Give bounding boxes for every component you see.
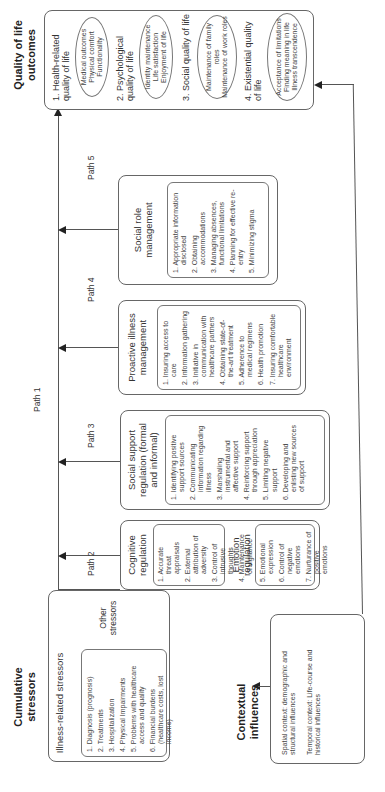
- regulation-box: Cognitive regulation 1. Accurate threat …: [120, 520, 320, 590]
- social-support-item: 3. Marshaling instrumental and affective…: [216, 420, 240, 500]
- social-role-item: 3. Managing absences, functional limitat…: [210, 187, 226, 273]
- qol-box: 1. Health-related quality of life Medica…: [44, 10, 314, 110]
- other-stressors-label: Other stressors: [99, 593, 119, 643]
- proactive-item: 3. Initiative in communication with heal…: [192, 310, 216, 385]
- contextual-box: Spatial context: demographic and structu…: [270, 614, 365, 764]
- path-5-line: [62, 229, 118, 230]
- oval-line: Identity maintenance: [144, 25, 152, 90]
- social-role-header: Social role management: [133, 180, 155, 280]
- stressor-item: 6. Financial burdens (healthcare costs, …: [149, 654, 173, 752]
- proactive-header: Proactive illness management: [127, 305, 149, 390]
- path-3-line: [62, 461, 120, 462]
- path-4-arrow-icon: [58, 344, 66, 352]
- proactive-box: Proactive illness management 1. Insuring…: [118, 300, 306, 395]
- path-3-label: Path 3: [86, 423, 96, 448]
- social-role-list: 1. Appropriate information disclosed 2. …: [172, 187, 256, 273]
- path-4-line: [62, 347, 118, 348]
- proactive-item: 4. Obtaining state-of-the-art treatment: [219, 310, 235, 385]
- qol-health-label: 1. Health-related quality of life: [51, 13, 72, 101]
- path-2-label: Path 2: [86, 551, 96, 576]
- temporal-context: Temporal context: Life-course and histor…: [306, 623, 323, 755]
- stressor-item: 4. Physical Impairments: [119, 654, 127, 752]
- illness-related-list-box: 1. Diagnosis (prognosis) 2. Treatments 3…: [81, 649, 167, 757]
- cognitive-item: 1. Accurate threat appraisals: [157, 528, 181, 582]
- oval-line: Physical comfort: [88, 31, 96, 82]
- social-support-list: 1. Identifying positive support sources …: [170, 420, 306, 500]
- path-3-arrow-icon: [58, 458, 66, 466]
- oval-line: Medical outcomes: [80, 29, 88, 85]
- diagram-canvas: Cumulative stressors Illness-related str…: [0, 0, 385, 792]
- cumulative-stressors-title: Cumulative stressors: [12, 642, 38, 752]
- oval-line: Finding meaning in life: [283, 22, 291, 92]
- path-2-arrow-icon: [58, 552, 66, 560]
- stressor-item: 2. Treatments: [97, 654, 105, 752]
- cognitive-header: Cognitive regulation: [127, 525, 149, 585]
- oval-line: Life satisfaction: [152, 33, 160, 81]
- oval-line: Acceptance of limitations: [275, 18, 283, 95]
- proactive-item: 6. Health promotion: [257, 310, 265, 385]
- path-5-label: Path 5: [86, 155, 96, 180]
- social-support-header: Social support regulation (formal and in…: [127, 415, 160, 505]
- oval-line: Functionality: [96, 37, 104, 76]
- spatial-context: Spatial context: demographic and structu…: [281, 623, 298, 755]
- emotion-item: 6. Control of negative emotions: [278, 528, 302, 582]
- social-support-item: 6. Developing and enlisting new sources …: [282, 420, 306, 500]
- oval-line: Illness transcendence: [291, 23, 299, 91]
- context-qol-connector: [320, 84, 354, 85]
- emotion-list-box: 5. Emotional expression 6. Control of ne…: [255, 524, 315, 586]
- social-role-item: 2. Obtaining accommodations: [191, 187, 207, 273]
- context-to-qol-line: [353, 84, 363, 614]
- social-support-item: 1. Identifying positive support sources: [170, 420, 186, 500]
- qol-existential-oval: Acceptance of limitations Finding meanin…: [267, 13, 307, 101]
- social-support-list-box: 1. Identifying positive support sources …: [165, 415, 325, 505]
- stressor-item: 5. Problems with healthcare access and q…: [130, 654, 146, 752]
- proactive-item: 2. Information gathering: [181, 310, 189, 385]
- path-1-label: Path 1: [32, 387, 42, 412]
- context-qol-arrow-icon: [314, 81, 322, 89]
- emotion-list: 5. Emotional expression 6. Control of ne…: [259, 528, 329, 582]
- cognitive-list-box: 1. Accurate threat appraisals 2. Externa…: [153, 524, 225, 586]
- qol-social-oval: Maintenance of family roles Maintenance …: [197, 15, 237, 99]
- social-role-item: 1. Appropriate information disclosed: [172, 187, 188, 273]
- social-role-box: Social role management 1. Appropriate in…: [118, 175, 278, 285]
- social-role-item: 5. Minimizing stigma: [248, 187, 256, 273]
- qol-existential-label: 4. Existential quality of life: [243, 13, 264, 101]
- illness-related-header: Illness-related stressors: [55, 651, 66, 755]
- stressors-box: Illness-related stressors 1. Diagnosis (…: [48, 590, 170, 762]
- illness-related-list: 1. Diagnosis (prognosis) 2. Treatments 3…: [86, 654, 173, 752]
- qol-psych-label: 2. Psychological quality of life: [115, 13, 136, 101]
- social-support-item: 2. Communicating information regarding i…: [189, 420, 213, 500]
- oval-line: Maintenance of family roles: [205, 16, 221, 98]
- social-support-item: 5. Limiting negative support: [262, 420, 278, 500]
- proactive-list: 1. Insuring access to care 2. Informatio…: [162, 310, 293, 385]
- stressor-item: 1. Diagnosis (prognosis): [86, 654, 94, 752]
- oval-line: Enjoyment of life: [160, 31, 168, 83]
- emotion-header: Emotion regulation: [231, 525, 253, 585]
- qol-social-label: 3. Social quality of life: [181, 13, 191, 101]
- path-1-line: [58, 115, 59, 590]
- oval-line: Maintenance of work roles: [221, 16, 229, 98]
- social-role-list-box: 1. Appropriate information disclosed 2. …: [167, 182, 269, 278]
- stressor-item: 3. Hospitalization: [108, 654, 116, 752]
- social-role-item: 4. Planning for effective re-entry: [229, 187, 245, 273]
- qol-title: Quality of life outcomes: [12, 10, 38, 100]
- path-4-label: Path 4: [86, 277, 96, 302]
- stressor-connector-line: [58, 589, 120, 590]
- qol-psych-oval: Identity maintenance Life satisfaction E…: [139, 15, 173, 99]
- social-support-item: 4. Reinforcing support through appreciat…: [243, 420, 259, 500]
- proactive-list-box: 1. Insuring access to care 2. Informatio…: [157, 305, 301, 390]
- proactive-item: 5. Adherence to medical regimens: [238, 310, 254, 385]
- emotion-item: 5. Emotional expression: [259, 528, 275, 582]
- qol-health-oval: Medical outcomes Physical comfort Functi…: [75, 17, 109, 97]
- emotion-item: 7. Nurturance of positive emotions: [305, 528, 329, 582]
- proactive-item: 1. Insuring access to care: [162, 310, 178, 385]
- cognitive-item: 2. External attribution of adversity: [184, 528, 208, 582]
- proactive-item: 7. Insuring comfortable healthcare envir…: [269, 310, 293, 385]
- context-arrow-line: [258, 686, 270, 687]
- social-support-box: Social support regulation (formal and in…: [120, 410, 330, 510]
- path-5-arrow-icon: [58, 226, 66, 234]
